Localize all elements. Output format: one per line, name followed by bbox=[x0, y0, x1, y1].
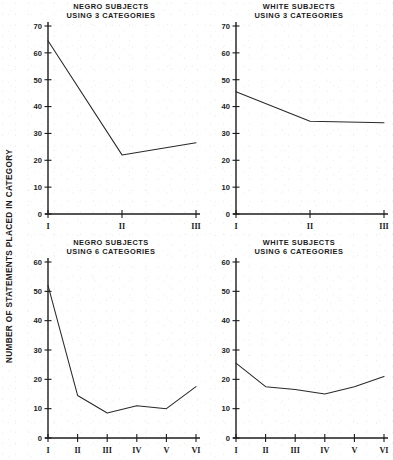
svg-text:I: I bbox=[46, 446, 49, 455]
svg-text:III: III bbox=[191, 222, 201, 231]
svg-text:40: 40 bbox=[34, 316, 42, 325]
panel-bottom-left: NEGRO SUBJECTS USING 6 CATEGORIES 010203… bbox=[22, 234, 200, 460]
y-axis-label-shared: NUMBER OF STATEMENTS PLACED IN CATEGORY bbox=[0, 96, 18, 416]
svg-text:II: II bbox=[74, 446, 80, 455]
svg-text:20: 20 bbox=[222, 375, 230, 384]
svg-text:III: III bbox=[102, 446, 112, 455]
figure-container: NUMBER OF STATEMENTS PLACED IN CATEGORY … bbox=[0, 0, 393, 460]
svg-text:VI: VI bbox=[191, 446, 200, 455]
panel-bottom-left-plot: 0102030405060IIIIIIIVVVI bbox=[22, 234, 200, 460]
svg-text:0: 0 bbox=[226, 210, 230, 219]
panel-bottom-right-plot: 0102030405060IIIIIIIVVVI bbox=[210, 234, 388, 460]
svg-text:40: 40 bbox=[222, 316, 230, 325]
svg-text:60: 60 bbox=[222, 49, 230, 58]
panel-top-left: NEGRO SUBJECTS USING 3 CATEGORIES 010203… bbox=[22, 2, 200, 230]
svg-text:IV: IV bbox=[132, 446, 141, 455]
svg-text:60: 60 bbox=[34, 258, 42, 267]
svg-text:30: 30 bbox=[222, 129, 230, 138]
svg-text:III: III bbox=[290, 446, 300, 455]
svg-text:70: 70 bbox=[222, 22, 230, 31]
panel-bottom-right: WHITE SUBJECTS USING 6 CATEGORIES 010203… bbox=[210, 234, 388, 460]
svg-text:III: III bbox=[379, 222, 389, 231]
panel-top-right-plot: 010203040506070IIIIII bbox=[210, 2, 388, 230]
svg-text:20: 20 bbox=[222, 156, 230, 165]
svg-text:0: 0 bbox=[38, 210, 42, 219]
svg-text:10: 10 bbox=[222, 183, 230, 192]
svg-text:V: V bbox=[351, 446, 357, 455]
svg-text:0: 0 bbox=[226, 434, 230, 443]
svg-text:I: I bbox=[234, 446, 237, 455]
svg-text:IV: IV bbox=[320, 446, 329, 455]
svg-text:V: V bbox=[163, 446, 169, 455]
svg-text:60: 60 bbox=[34, 49, 42, 58]
svg-text:30: 30 bbox=[34, 346, 42, 355]
svg-text:10: 10 bbox=[222, 404, 230, 413]
svg-text:40: 40 bbox=[34, 102, 42, 111]
svg-text:II: II bbox=[119, 222, 125, 231]
svg-text:50: 50 bbox=[34, 287, 42, 296]
panel-top-left-plot: 010203040506070IIIIII bbox=[22, 2, 200, 230]
svg-text:20: 20 bbox=[34, 375, 42, 384]
svg-text:II: II bbox=[307, 222, 313, 231]
svg-text:II: II bbox=[262, 446, 268, 455]
svg-text:VI: VI bbox=[379, 446, 388, 455]
svg-text:40: 40 bbox=[222, 102, 230, 111]
y-axis-label-text: NUMBER OF STATEMENTS PLACED IN CATEGORY bbox=[5, 149, 14, 363]
panel-top-right: WHITE SUBJECTS USING 3 CATEGORIES 010203… bbox=[210, 2, 388, 230]
svg-text:50: 50 bbox=[34, 76, 42, 85]
svg-text:30: 30 bbox=[34, 129, 42, 138]
svg-text:60: 60 bbox=[222, 258, 230, 267]
svg-text:10: 10 bbox=[34, 404, 42, 413]
svg-text:0: 0 bbox=[38, 434, 42, 443]
svg-text:50: 50 bbox=[222, 76, 230, 85]
svg-text:I: I bbox=[46, 222, 49, 231]
svg-text:20: 20 bbox=[34, 156, 42, 165]
svg-text:10: 10 bbox=[34, 183, 42, 192]
svg-text:50: 50 bbox=[222, 287, 230, 296]
svg-text:30: 30 bbox=[222, 346, 230, 355]
svg-text:70: 70 bbox=[34, 22, 42, 31]
svg-text:I: I bbox=[234, 222, 237, 231]
